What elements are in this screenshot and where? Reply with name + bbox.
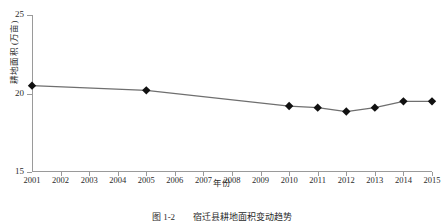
figure-caption: 图 1-2 宿迁县耕地面积变动趋势 bbox=[0, 210, 444, 221]
data-series-layer bbox=[32, 15, 432, 172]
data-point-marker bbox=[314, 103, 322, 111]
data-point-marker bbox=[399, 97, 407, 105]
y-axis-tick-label: 20 bbox=[15, 88, 24, 98]
data-point-marker bbox=[285, 102, 293, 110]
data-point-marker bbox=[142, 86, 150, 94]
data-point-marker bbox=[371, 103, 379, 111]
data-point-marker bbox=[28, 81, 36, 89]
y-axis-tick: 15 bbox=[27, 172, 32, 173]
data-point-marker bbox=[428, 97, 436, 105]
plot-area: 152025 200120022003200420052006200720082… bbox=[32, 15, 432, 172]
data-point-marker bbox=[342, 107, 350, 115]
x-axis-title: 年份 bbox=[0, 176, 444, 188]
y-axis-tick-label: 25 bbox=[15, 9, 24, 19]
figure-container: 耕地面积 (万亩) 152025 20012002200320042005200… bbox=[0, 0, 444, 221]
